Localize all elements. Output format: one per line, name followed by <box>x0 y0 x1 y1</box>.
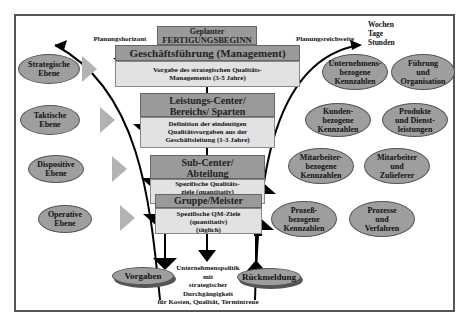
time-unit-weeks: Wochen <box>368 20 395 29</box>
level-department-header: Sub-Center/ Abteilung <box>150 155 265 179</box>
oval-strategic-line1: Strategische <box>28 60 70 69</box>
oval-products-line2: und Dienst- <box>395 116 435 125</box>
oval-tactical-level: TaktischeEbene <box>20 105 80 135</box>
level-department-title-2: Abteilung <box>151 168 264 179</box>
oval-company-kpis-line3: Kennzahlen <box>329 77 382 86</box>
time-units-label: Wochen Tage Stunden <box>368 20 395 47</box>
oval-leadership-line1: Führung <box>401 59 446 68</box>
oval-processes-line1: Prozesse <box>365 206 400 215</box>
policy-line-4: Durchgängigkeit <box>148 290 268 299</box>
oval-employees-line2: und <box>377 162 417 171</box>
oval-process-kpis: Prozeß-bezogeneKennzahlen <box>271 201 337 237</box>
oval-process-kpis-line3: Kennzahlen <box>284 224 325 233</box>
oval-employees-line3: Zulieferer <box>377 171 417 180</box>
level-business-unit-header: Leistungs-Center/ Bereichs/ Sparten <box>140 93 275 117</box>
oval-leadership-line3: Organisation <box>401 77 446 86</box>
oval-dispositive-level: DispositiveEbene <box>28 155 84 183</box>
planned-production-start-box: Geplanter FERTIGUNGSBEGINN <box>157 26 257 45</box>
oval-company-kpis-line1: Unternehmens- <box>329 59 382 68</box>
triangle-arrow-icon <box>112 156 127 182</box>
triangle-arrow-icon <box>82 56 97 82</box>
level-group-header: Gruppe/Meister <box>155 194 262 208</box>
level-management-desc-2: Managements (3-5 Jahre) <box>116 74 299 82</box>
level-business-unit-desc-2: Qualitätsvorgaben aus der <box>141 128 274 136</box>
planned-start-line2: FERTIGUNGSBEGINN <box>158 36 256 44</box>
planning-range-label: Planungsreichweite <box>280 35 370 44</box>
level-management-header: Geschäftsführung (Management) <box>115 45 300 61</box>
oval-operative-line1: Operative <box>48 210 82 219</box>
oval-strategic-level: StrategischeEbene <box>18 54 80 84</box>
oval-dispositive-line1: Dispositive <box>37 160 74 169</box>
oval-employees-line1: Mitarbeiter <box>377 153 417 162</box>
level-group-desc-2: (quantitativ) <box>156 218 261 226</box>
oval-process-kpis-line1: Prozeß- <box>284 206 325 215</box>
level-business-unit-body: Definition der eindeutigen Qualitätsvorg… <box>140 117 275 148</box>
oval-strategic-line2: Ebene <box>28 69 70 78</box>
level-business-unit-desc-3: Geschäftsleitung (1-3 Jahre) <box>141 136 274 144</box>
triangle-arrow-icon <box>100 107 115 133</box>
oval-products-services: Produkteund Dienst-leistungen <box>382 103 448 137</box>
policy-line-2: mit <box>148 273 268 282</box>
level-group-desc-3: (täglich) <box>156 226 261 234</box>
level-management-desc-1: Vorgabe des strategischen Qualitäts- <box>116 66 299 74</box>
oval-customer-kpis-line1: Kunden- <box>318 107 359 116</box>
level-business-unit-title-2: Bereichs/ Sparten <box>141 106 274 117</box>
oval-employee-kpis-line1: Mitarbeiter- <box>300 153 342 162</box>
oval-processes-line3: Verfahren <box>365 224 400 233</box>
policy-line-3: strategischer <box>148 281 268 290</box>
oval-company-kpis: Unternehmens-bezogeneKennzahlen <box>322 54 388 90</box>
oval-tactical-line2: Ebene <box>34 120 67 129</box>
oval-process-kpis-line2: bezogene <box>284 215 325 224</box>
level-group-desc-1: Spezifische QM-Ziele <box>156 210 261 218</box>
level-group-title: Gruppe/Meister <box>174 195 243 206</box>
level-group-body: Spezifische QM-Ziele (quantitativ) (tägl… <box>155 208 262 234</box>
oval-tactical-line1: Taktische <box>34 111 67 120</box>
level-business-unit-desc-1: Definition der eindeutigen <box>141 120 274 128</box>
oval-processes-procedures: ProzesseundVerfahren <box>349 201 415 237</box>
oval-products-line1: Produkte <box>395 107 435 116</box>
oval-operative-level: OperativeEbene <box>38 205 92 233</box>
time-unit-days: Tage <box>368 29 395 38</box>
oval-employees-suppliers: MitarbeiterundZulieferer <box>364 148 430 184</box>
oval-products-line3: leistungen <box>395 125 435 134</box>
level-department-desc-1: Spezifische Qualitäts- <box>151 180 264 188</box>
company-policy-text: Unternehmenspolitik mit strategischer Du… <box>148 264 268 307</box>
oval-employee-kpis-line2: bezogene <box>300 162 342 171</box>
oval-company-kpis-line2: bezogene <box>329 68 382 77</box>
policy-line-5: für Kosten, Qualität, Termintreue <box>148 298 268 307</box>
level-management-title: Geschäftsführung (Management) <box>129 47 285 59</box>
triangle-arrow-icon <box>120 205 135 231</box>
oval-leadership-organization: FührungundOrganisation <box>391 54 455 90</box>
oval-customer-kpis-line3: Kennzahlen <box>318 125 359 134</box>
oval-dispositive-line2: Ebene <box>37 169 74 178</box>
oval-processes-line2: und <box>365 215 400 224</box>
oval-customer-kpis: Kunden-bezogeneKennzahlen <box>305 103 371 137</box>
level-department-title-1: Sub-Center/ <box>151 157 264 168</box>
level-management-body: Vorgabe des strategischen Qualitäts- Man… <box>115 61 300 87</box>
oval-customer-kpis-line2: bezogene <box>318 116 359 125</box>
oval-leadership-line2: und <box>401 68 446 77</box>
planning-horizon-label: Planungshorizont <box>80 35 160 44</box>
time-unit-hours: Stunden <box>368 38 395 47</box>
level-business-unit-title-1: Leistungs-Center/ <box>141 95 274 106</box>
oval-operative-line2: Ebene <box>48 219 82 228</box>
policy-line-1: Unternehmenspolitik <box>148 264 268 273</box>
oval-employee-kpis: Mitarbeiter-bezogeneKennzahlen <box>288 148 354 184</box>
oval-employee-kpis-line3: Kennzahlen <box>300 171 342 180</box>
